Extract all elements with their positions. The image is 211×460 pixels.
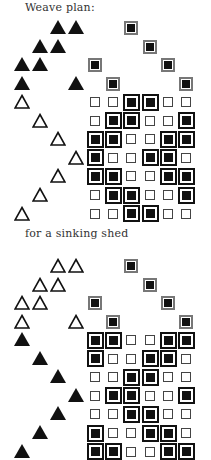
drawdown-empty-cell [126,428,136,438]
threading-mark [124,259,138,273]
drawdown-raised-cell [142,406,159,423]
drawdown-empty-cell [163,409,173,419]
treadle-solid-triangle-icon [14,332,30,346]
treadle-solid-triangle-icon [32,425,48,439]
drawdown-empty-cell [181,354,191,364]
drawdown-raised-cell [160,350,177,367]
drawdown-empty-cell [108,372,118,382]
treadle-solid-triangle-icon [14,444,30,458]
treadle-solid-triangle-icon [68,388,84,402]
drawdown-empty-cell [145,447,155,457]
drawdown-empty-cell [181,428,191,438]
drawdown-raised-cell [142,425,159,442]
drawdown-raised-cell [123,369,140,386]
drawdown-raised-cell [178,332,195,349]
drawdown-raised-cell [87,350,104,367]
threading-mark [106,315,120,329]
threading-mark [143,278,157,292]
threading-mark [161,296,175,310]
drawdown-empty-cell [108,428,118,438]
drawdown-empty-cell [145,335,155,345]
drawdown-empty-cell [163,391,173,401]
drawdown-raised-cell [87,425,104,442]
treadle-solid-triangle-icon [50,406,66,420]
drawdown-empty-cell [108,354,118,364]
drawdown-empty-cell [145,391,155,401]
drawdown-empty-cell [90,391,100,401]
drawdown-empty-cell [90,372,100,382]
drawdown-raised-cell [142,369,159,386]
drawdown-raised-cell [123,387,140,404]
threading-mark [179,315,193,329]
drawdown-empty-cell [126,447,136,457]
drawdown-raised-cell [105,443,122,460]
drawdown-empty-cell [126,335,136,345]
drawdown-raised-cell [178,387,195,404]
treadle-solid-triangle-icon [32,351,48,365]
drawdown-raised-cell [178,443,195,460]
drawdown-empty-cell [181,409,191,419]
drawdown-raised-cell [160,443,177,460]
drawdown-raised-cell [105,387,122,404]
threading-mark [88,296,102,310]
drawdown-raised-cell [160,332,177,349]
drawdown-raised-cell [87,443,104,460]
drawdown-empty-cell [90,409,100,419]
drawdown-empty-cell [181,372,191,382]
drawdown-raised-cell [142,350,159,367]
drawdown-raised-cell [87,332,104,349]
drawdown-raised-cell [105,332,122,349]
drawdown-raised-cell [160,425,177,442]
drawdown-empty-cell [108,409,118,419]
drawdown-empty-cell [126,354,136,364]
drawdown-raised-cell [123,406,140,423]
drawdown-empty-cell [163,372,173,382]
treadle-solid-triangle-icon [50,369,66,383]
